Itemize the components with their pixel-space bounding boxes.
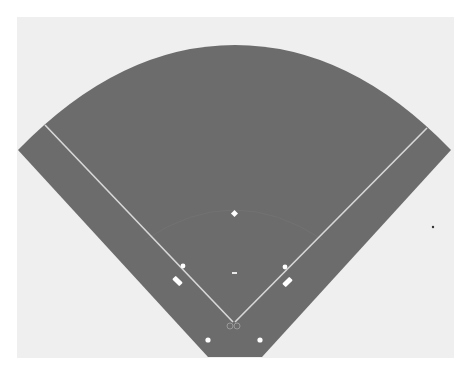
baseball-field-diagram — [0, 0, 467, 385]
stray-dot — [432, 226, 434, 228]
third-base — [181, 264, 186, 269]
on-deck-left — [205, 337, 210, 342]
diagram-stage: ng up — [0, 0, 467, 385]
on-deck-right — [257, 337, 262, 342]
first-base — [283, 265, 288, 270]
pitchers-mound — [232, 272, 237, 274]
